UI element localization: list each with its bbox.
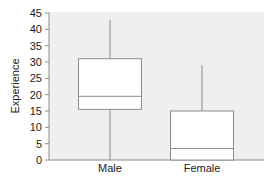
y-tick-label: 0: [36, 154, 42, 166]
y-tick-label: 15: [30, 105, 42, 117]
box-plot-chart: 051015202530354045 MaleFemale Experience: [0, 0, 272, 180]
iqr-box: [79, 59, 142, 110]
iqr-box: [171, 111, 234, 160]
y-tick-label: 30: [30, 56, 42, 68]
y-tick-label: 40: [30, 23, 42, 35]
y-axis-title: Experience: [9, 58, 21, 113]
category-labels: MaleFemale: [98, 162, 220, 174]
y-tick-label: 45: [30, 7, 42, 19]
y-axis: 051015202530354045: [30, 7, 49, 166]
y-tick-label: 25: [30, 72, 42, 84]
y-tick-label: 35: [30, 40, 42, 52]
x-category-label: Male: [98, 162, 122, 174]
y-tick-label: 5: [36, 138, 42, 150]
y-tick-label: 10: [30, 121, 42, 133]
y-tick-label: 20: [30, 89, 42, 101]
x-category-label: Female: [184, 162, 221, 174]
